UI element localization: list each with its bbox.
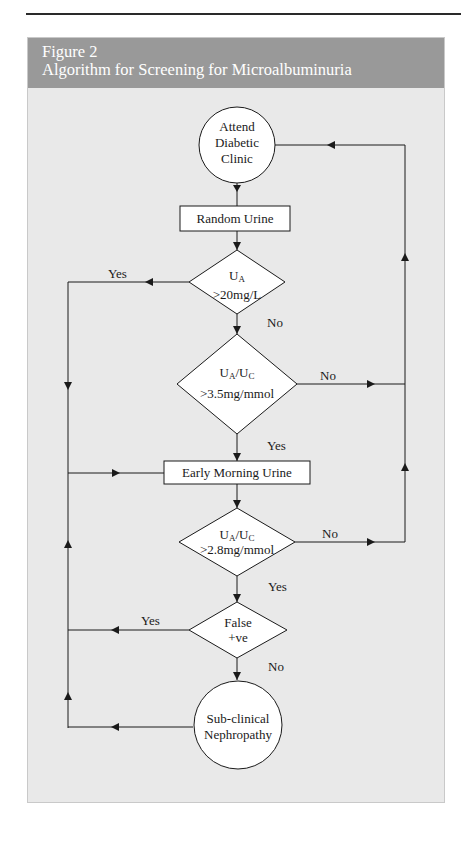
node-text: Sub-clinical [207,711,270,726]
edge-label-no: No [268,659,284,674]
node-text: Nephropathy [204,727,272,742]
flowchart: Attend Diabetic Clinic Random Urine UA >… [0,0,461,856]
node-text: >2.8mg/mmol [200,542,275,557]
node-text: Early Morning Urine [182,465,292,480]
node-attend-clinic: Attend Diabetic Clinic [199,107,275,183]
edge-label-no: No [267,315,283,330]
decision-ratio-3-5: UA/UC >3.5mg/mmol [177,334,297,434]
edge-label-no: No [322,526,338,541]
node-early-morning-urine: Early Morning Urine [164,461,310,484]
decision-ratio-2-8: UA/UC >2.8mg/mmol [179,508,295,576]
edge-label-yes: Yes [268,579,287,594]
node-random-urine: Random Urine [180,206,290,231]
node-text: >3.5mg/mmol [200,386,275,401]
node-text: Random Urine [197,211,274,226]
node-text: >20mg/L [213,287,262,302]
node-text: False [224,615,252,630]
decision-false-positive: False +ve [189,602,287,658]
edge-label-yes: Yes [141,613,160,628]
edge-label-yes: Yes [267,438,286,453]
node-text: Clinic [221,151,253,166]
node-text: Diabetic [215,135,259,150]
node-text: Attend [219,119,255,134]
decision-ua-20: UA >20mg/L [189,250,285,314]
edge-label-no: No [320,368,336,383]
edge-label-yes: Yes [108,266,127,281]
node-text: +ve [228,630,248,645]
node-subclinical-nephropathy: Sub-clinical Nephropathy [194,681,282,769]
